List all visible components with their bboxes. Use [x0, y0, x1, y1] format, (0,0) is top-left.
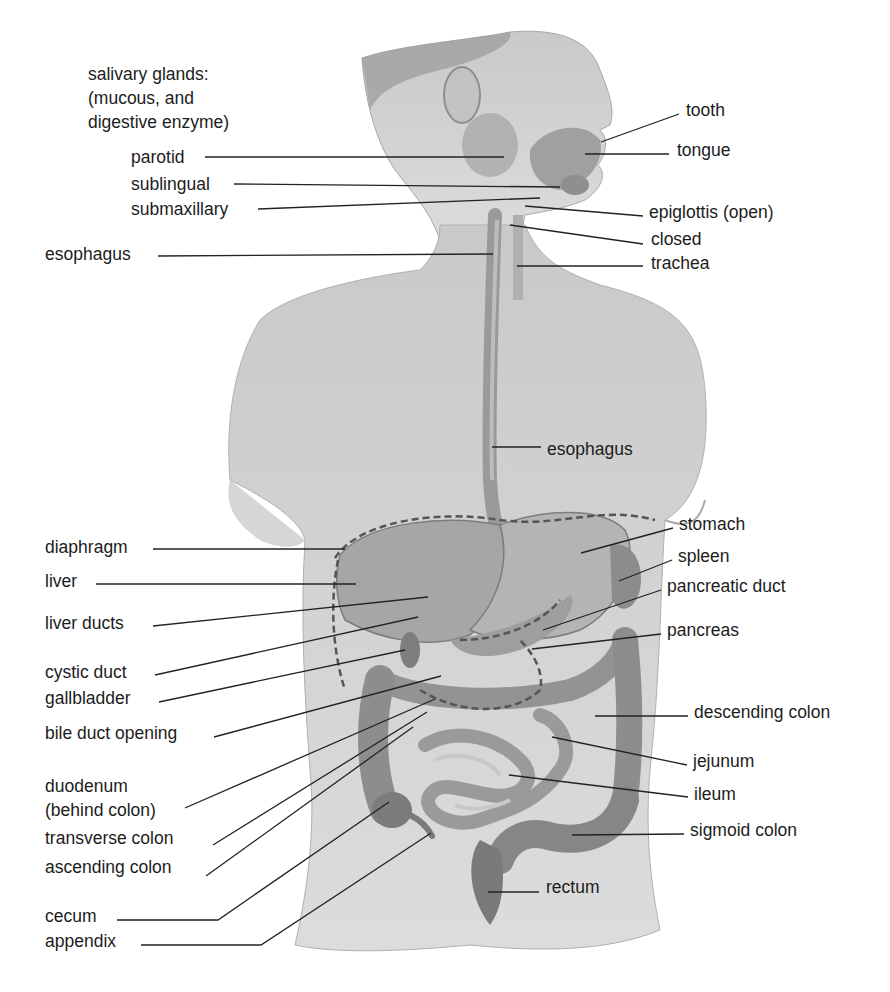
label-cystic-duct: cystic duct	[45, 660, 127, 684]
label-bile-duct-opening: bile duct opening	[45, 721, 177, 745]
label-stomach: stomach	[679, 512, 745, 536]
label-spleen: spleen	[678, 544, 730, 568]
label-trachea: trachea	[651, 251, 709, 275]
label-sigmoid-colon: sigmoid colon	[690, 818, 797, 842]
label-appendix: appendix	[45, 929, 116, 953]
label-jejunum: jejunum	[693, 749, 754, 773]
label-sublingual: sublingual	[131, 172, 210, 196]
label-duodenum: duodenum (behind colon)	[45, 774, 156, 822]
label-gallbladder: gallbladder	[45, 686, 131, 710]
label-cecum: cecum	[45, 904, 97, 928]
label-esophagus-lower: esophagus	[547, 437, 633, 461]
salivary-glands-heading: salivary glands: (mucous, and digestive …	[88, 62, 229, 134]
label-epiglottis-open: epiglottis (open)	[649, 200, 774, 224]
label-descending-colon: descending colon	[694, 700, 830, 724]
label-diaphragm: diaphragm	[45, 535, 128, 559]
label-ileum: ileum	[694, 782, 736, 806]
label-pancreatic-duct: pancreatic duct	[667, 574, 786, 598]
label-liver-ducts: liver ducts	[45, 611, 124, 635]
label-closed: closed	[651, 227, 702, 251]
label-tongue: tongue	[677, 138, 731, 162]
label-layer: salivary glands: (mucous, and digestive …	[0, 0, 890, 992]
label-tooth: tooth	[686, 98, 725, 122]
label-submaxillary: submaxillary	[131, 197, 228, 221]
label-esophagus-upper: esophagus	[45, 242, 131, 266]
label-liver: liver	[45, 569, 77, 593]
label-parotid: parotid	[131, 145, 185, 169]
label-transverse-colon: transverse colon	[45, 826, 173, 850]
label-ascending-colon: ascending colon	[45, 855, 171, 879]
label-rectum: rectum	[546, 875, 599, 899]
label-pancreas: pancreas	[667, 618, 739, 642]
